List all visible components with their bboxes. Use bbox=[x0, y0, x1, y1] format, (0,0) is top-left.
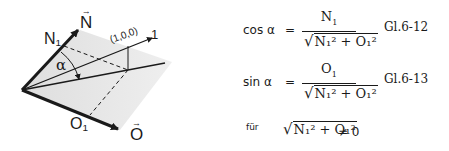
n-vector-label: →N bbox=[80, 14, 92, 31]
o-vector-label: →O bbox=[130, 126, 143, 143]
sin-numerator: O1 bbox=[302, 61, 356, 83]
diagram-graphic bbox=[0, 0, 200, 151]
n1-label: N1 bbox=[44, 31, 61, 48]
cos-numerator: N1 bbox=[302, 9, 356, 31]
vector-diagram: →N N1 (1,0,0) 1 α O1 →O bbox=[0, 0, 200, 151]
sin-fraction: O1 √N₁² + O₁² bbox=[302, 61, 356, 102]
equals-sign: = bbox=[285, 75, 295, 89]
equation-number-6-13: Gl.6-13 bbox=[384, 72, 428, 86]
cos-denominator: √N₁² + O₁² bbox=[302, 31, 356, 50]
equals-sign: = bbox=[285, 23, 295, 37]
alpha-label: α bbox=[56, 58, 66, 73]
condition-relation: ≠ 0 bbox=[338, 125, 360, 139]
sin-alpha-lhs: sin α bbox=[243, 75, 272, 89]
cos-fraction: N1 √N₁² + O₁² bbox=[302, 9, 356, 50]
sin-denominator: √N₁² + O₁² bbox=[302, 83, 356, 102]
unit-tip-label: 1 bbox=[151, 28, 158, 41]
condition-prefix: für bbox=[246, 122, 259, 132]
cos-alpha-lhs: cos α bbox=[243, 23, 275, 37]
o1-label: O1 bbox=[70, 116, 88, 133]
equation-number-6-12: Gl.6-12 bbox=[384, 20, 428, 34]
